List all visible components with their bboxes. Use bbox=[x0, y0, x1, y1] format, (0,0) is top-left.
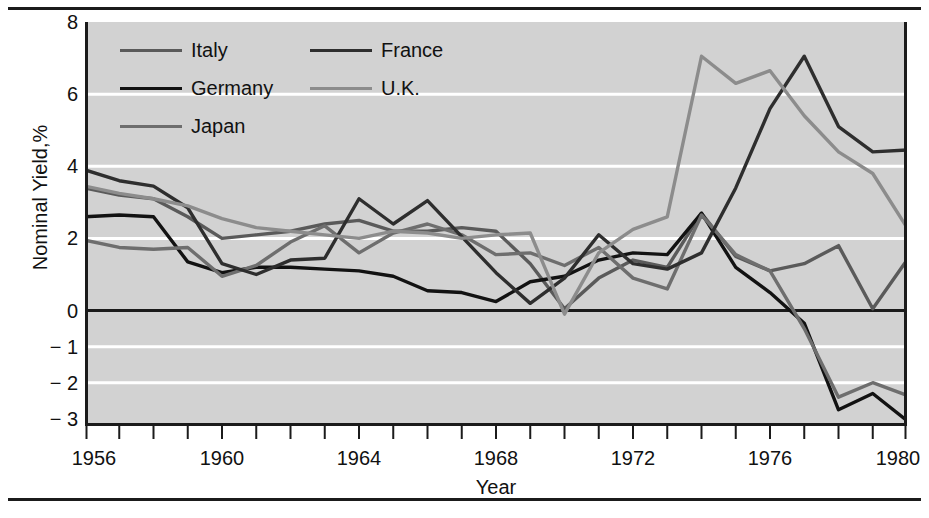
series-line-italy bbox=[85, 188, 907, 309]
x-tick-label: 1980 bbox=[876, 447, 921, 469]
legend-swatch-icon bbox=[120, 125, 182, 128]
y-axis-title: Nominal Yield,% bbox=[29, 48, 52, 348]
chart-legend: ItalyGermanyJapanFranceU.K. bbox=[120, 40, 450, 148]
x-tick-label: 1976 bbox=[748, 447, 793, 469]
legend-label: Germany bbox=[191, 78, 273, 98]
x-tick-label: 1956 bbox=[72, 447, 117, 469]
x-tick-label: 1968 bbox=[474, 447, 519, 469]
legend-label: Japan bbox=[191, 116, 246, 136]
x-axis-title: Year bbox=[85, 476, 907, 499]
legend-swatch-icon bbox=[310, 87, 372, 90]
legend-swatch-icon bbox=[120, 49, 182, 52]
x-tick-label: 1964 bbox=[337, 447, 382, 469]
legend-swatch-icon bbox=[120, 87, 182, 90]
legend-item-japan[interactable]: Japan bbox=[120, 116, 246, 136]
y-tick-label: − 3 bbox=[6, 409, 78, 429]
figure-container: 86420− 1− 2− 3 1956196019641968197219761… bbox=[0, 0, 929, 518]
x-tick-label: 1960 bbox=[200, 447, 245, 469]
legend-swatch-icon bbox=[310, 49, 372, 52]
y-tick-label: − 2 bbox=[6, 373, 78, 393]
y-tick-label: 8 bbox=[6, 12, 78, 32]
x-tick-label: 1972 bbox=[611, 447, 656, 469]
top-rule bbox=[8, 7, 921, 10]
legend-label: France bbox=[381, 40, 443, 60]
legend-item-italy[interactable]: Italy bbox=[120, 40, 228, 60]
legend-label: U.K. bbox=[381, 78, 420, 98]
legend-label: Italy bbox=[191, 40, 228, 60]
legend-item-germany[interactable]: Germany bbox=[120, 78, 273, 98]
legend-item-france[interactable]: France bbox=[310, 40, 443, 60]
legend-item-uk[interactable]: U.K. bbox=[310, 78, 420, 98]
x-axis-tick-labels: 1956196019641968197219761980 bbox=[85, 447, 907, 473]
x-axis-ticks bbox=[85, 426, 907, 444]
